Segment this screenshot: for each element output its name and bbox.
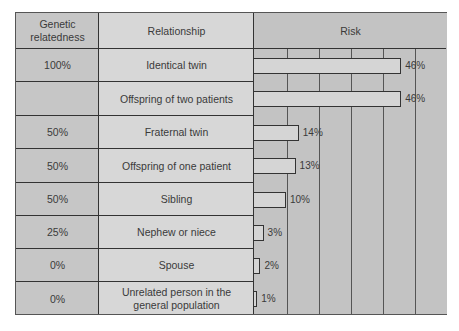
risk-value-label: 13% (300, 160, 320, 172)
risk-bar (254, 225, 264, 241)
relationship-text: Nephew or niece (137, 226, 216, 239)
column-divider (253, 13, 254, 314)
header-divider (16, 48, 446, 49)
relationship-text: Offspring of one patient (122, 160, 231, 173)
relationship-cell: Fraternal twin (99, 116, 254, 149)
relationship-text: Fraternal twin (145, 126, 209, 139)
header-risk: Risk (254, 13, 447, 49)
risk-bar (254, 125, 299, 141)
relationship-cell: Sibling (99, 183, 254, 216)
genetic-relatedness-cell: 0% (16, 249, 99, 282)
genetic-relatedness-cell: 50% (16, 149, 99, 183)
risk-value-label: 14% (303, 127, 323, 139)
relationship-text: Unrelated person in the general populati… (113, 286, 241, 312)
genetic-relatedness-cell: 50% (16, 183, 99, 216)
risk-bar (254, 258, 260, 274)
relationship-cell: Offspring of one patient (99, 149, 254, 183)
gridline (383, 49, 384, 314)
risk-bar (254, 158, 296, 174)
risk-bar (254, 58, 401, 74)
relationship-cell: Unrelated person in the general populati… (99, 282, 254, 316)
genetic-relatedness-cell: 25% (16, 216, 99, 249)
risk-value-label: 3% (268, 227, 282, 239)
gridline (319, 49, 320, 314)
risk-bar (254, 291, 257, 307)
gridline (351, 49, 352, 314)
risk-value-label: 1% (261, 293, 275, 305)
risk-value-label: 46% (405, 60, 425, 72)
genetic-relatedness-cell: 0% (16, 282, 99, 316)
relationship-text: Sibling (161, 193, 193, 206)
risk-value-label: 2% (264, 260, 278, 272)
genetic-relatedness-cell (16, 82, 99, 116)
risk-value-label: 46% (405, 93, 425, 105)
relationship-cell: Identical twin (99, 49, 254, 82)
gridline (415, 49, 416, 314)
gridline (287, 49, 288, 314)
relationship-text: Spouse (159, 259, 195, 272)
header-genetic-relatedness-text: Genetic relatedness (23, 18, 93, 44)
risk-bar (254, 192, 286, 208)
risk-table: Genetic relatedness Relationship Risk 10… (15, 12, 447, 315)
relationship-cell: Offspring of two patients (99, 82, 254, 116)
risk-value-label: 10% (290, 194, 310, 206)
relationship-cell: Spouse (99, 249, 254, 282)
relationship-text: Offspring of two patients (120, 93, 233, 106)
genetic-relatedness-cell: 50% (16, 116, 99, 149)
column-divider (98, 13, 99, 314)
header-genetic-relatedness: Genetic relatedness (16, 13, 99, 49)
relationship-text: Identical twin (146, 59, 207, 72)
header-relationship: Relationship (99, 13, 254, 49)
relationship-cell: Nephew or niece (99, 216, 254, 249)
risk-bar (254, 91, 401, 107)
genetic-relatedness-cell: 100% (16, 49, 99, 82)
